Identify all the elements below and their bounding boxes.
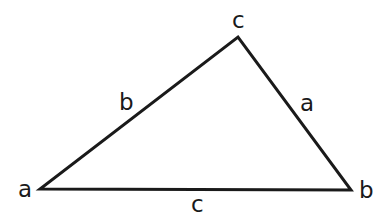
- vertex-label-b: b: [359, 177, 374, 203]
- vertex-label-a: a: [18, 176, 32, 202]
- triangle-diagram: c a b b a c: [0, 0, 392, 216]
- side-label-c: c: [191, 191, 204, 216]
- side-label-b: b: [119, 89, 134, 115]
- vertex-label-c: c: [232, 7, 245, 33]
- triangle-svg: c a b b a c: [0, 0, 392, 216]
- side-label-a: a: [300, 90, 314, 116]
